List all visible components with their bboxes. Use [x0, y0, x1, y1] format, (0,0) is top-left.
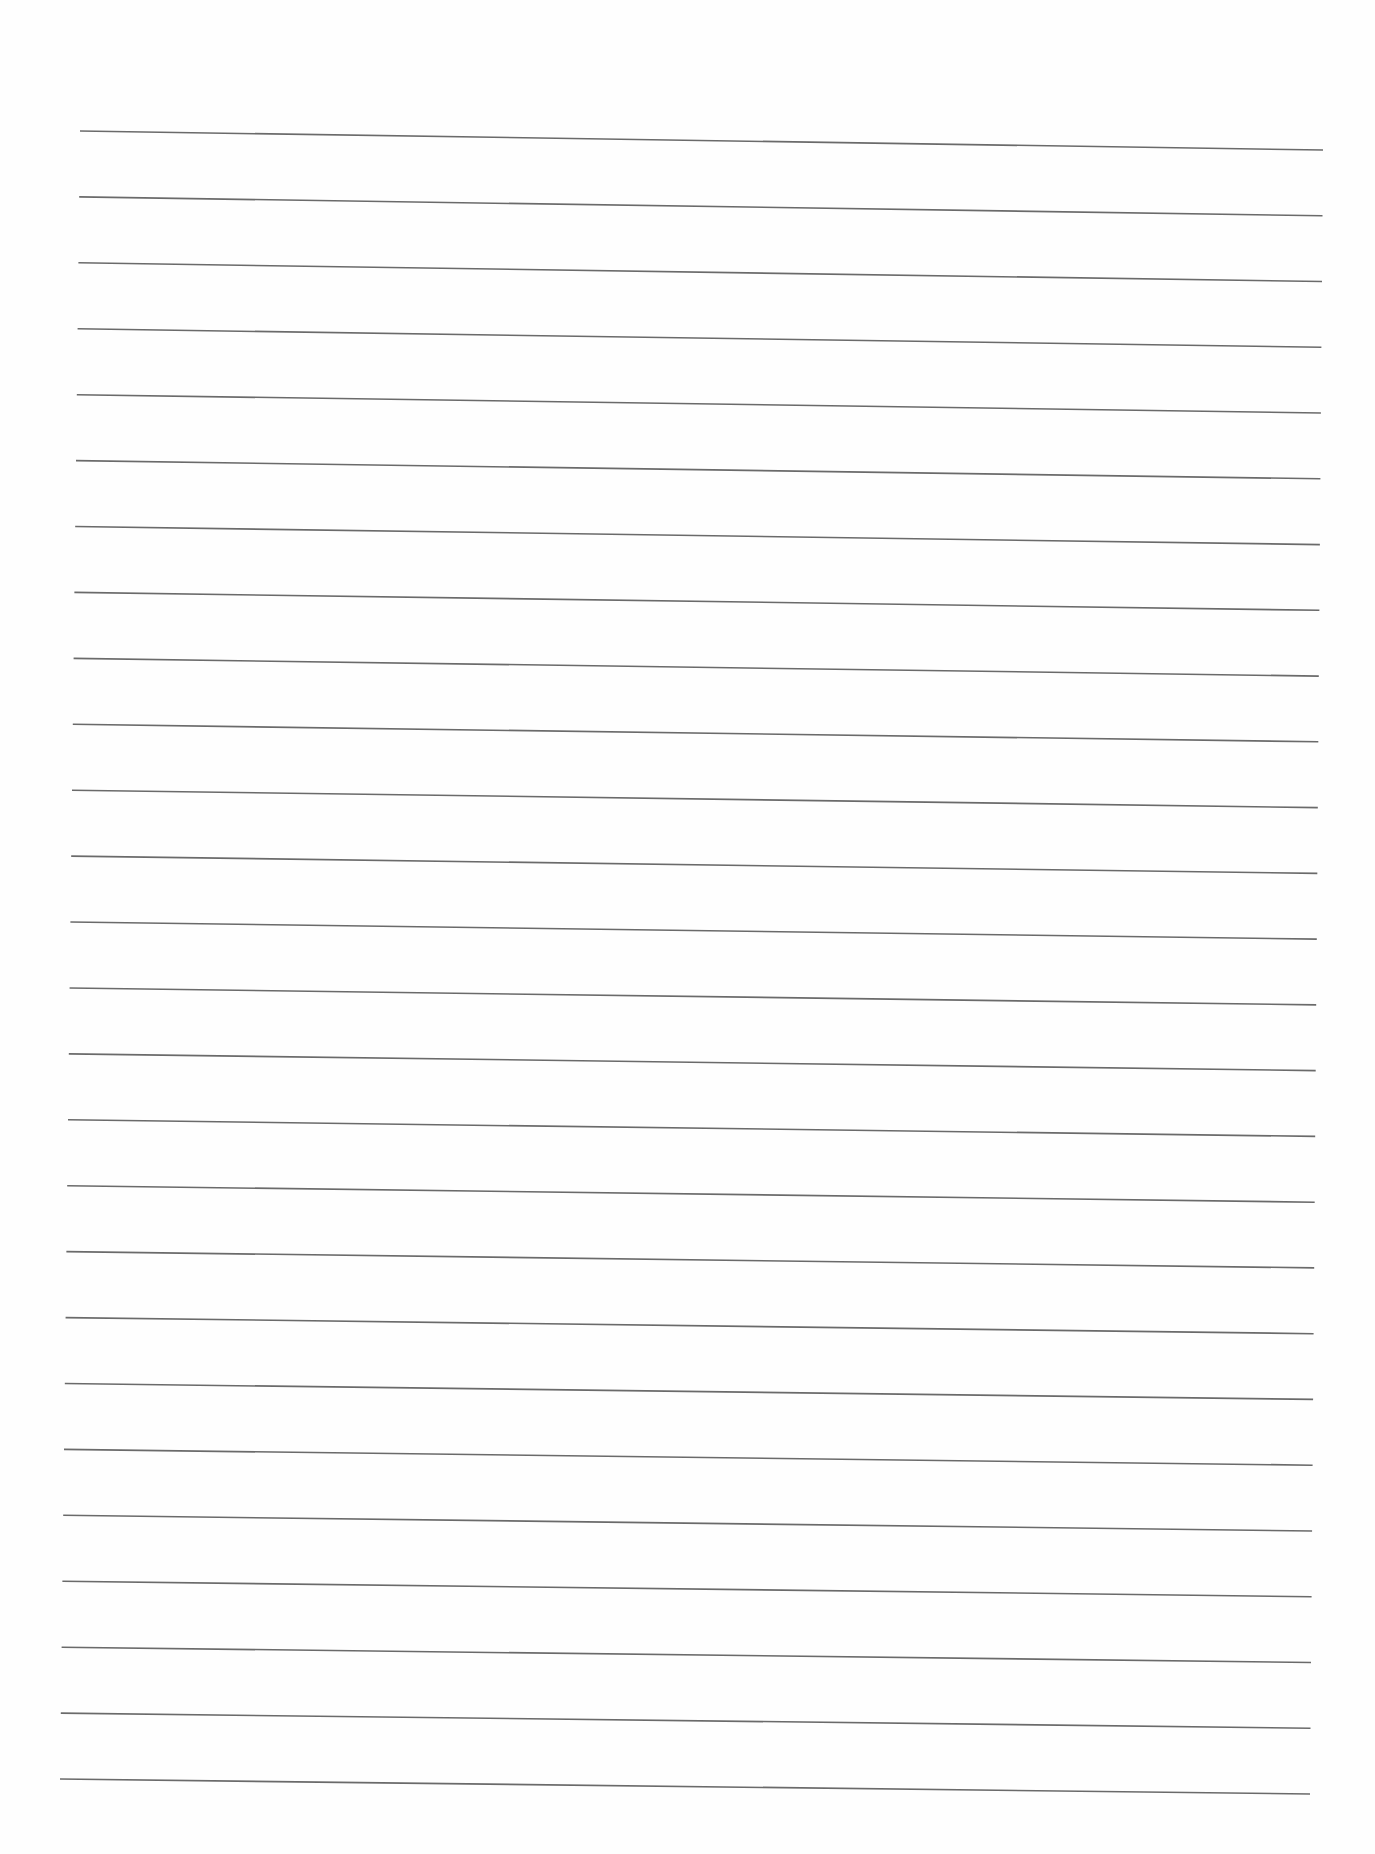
- ruled-line: [70, 988, 1317, 1005]
- ruled-line: [68, 1120, 1315, 1137]
- ruled-line: [62, 1581, 1311, 1597]
- ruled-line: [63, 1515, 1312, 1531]
- ruled-line: [70, 922, 1316, 939]
- ruled-line: [75, 527, 1320, 545]
- ruled-line: [69, 1054, 1316, 1071]
- ruled-line: [60, 1779, 1310, 1794]
- ruled-line: [72, 790, 1318, 807]
- ruled-line: [66, 1318, 1314, 1334]
- ruled-line: [65, 1384, 1313, 1400]
- ruled-line: [74, 658, 1319, 676]
- ruled-line: [71, 856, 1317, 873]
- ruled-line: [79, 197, 1322, 216]
- ruled-lines: [0, 0, 1375, 1854]
- ruled-line: [78, 263, 1322, 282]
- ruled-line: [67, 1186, 1315, 1203]
- ruled-line: [66, 1252, 1314, 1268]
- ruled-line: [62, 1647, 1311, 1662]
- ruled-line: [64, 1449, 1313, 1465]
- ruled-line: [78, 329, 1322, 348]
- ruled-line: [74, 592, 1319, 610]
- ruled-paper-sheet: [0, 0, 1375, 1854]
- ruled-line: [76, 461, 1320, 479]
- ruled-line: [77, 395, 1321, 413]
- ruled-line: [80, 131, 1323, 150]
- ruled-line: [73, 724, 1319, 742]
- ruled-line: [61, 1713, 1311, 1728]
